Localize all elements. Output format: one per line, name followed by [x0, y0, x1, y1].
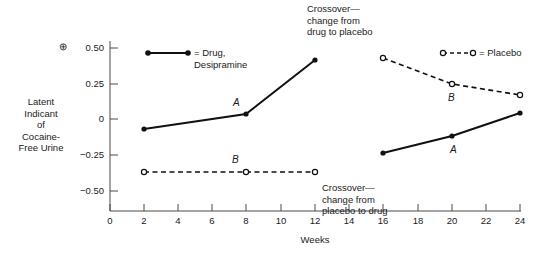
legend-placebo-sample — [440, 50, 475, 55]
annotation-crossover-placebo-to-drug: Crossover— change from placebo to drug — [322, 182, 388, 217]
x-axis-ticks — [110, 204, 520, 211]
legend-label-placebo: = Placebo — [479, 47, 522, 59]
y-axis-title: Latent Indicant of Cocaine- Free Urine — [10, 96, 72, 154]
axis-lines — [110, 41, 521, 211]
xtick-label-4: 4 — [164, 215, 192, 226]
ytick-label-neg-0-50: −0.50 — [52, 185, 104, 196]
xtick-label-6: 6 — [198, 215, 226, 226]
xtick-label-22: 22 — [472, 215, 500, 226]
point-label-a-left: A — [233, 97, 240, 109]
point-label-b-right: B — [448, 92, 455, 104]
xtick-label-16: 16 — [369, 215, 397, 226]
xtick-label-20: 20 — [438, 215, 466, 226]
point-label-b-left: B — [232, 154, 239, 166]
xtick-label-0: 0 — [96, 215, 124, 226]
xtick-label-12: 12 — [301, 215, 329, 226]
legend-label-drug: = Drug, Desipramine — [194, 47, 247, 70]
xtick-label-10: 10 — [267, 215, 295, 226]
xtick-label-2: 2 — [130, 215, 158, 226]
legend-drug-sample — [145, 50, 191, 56]
annotation-crossover-drug-to-placebo: Crossover— change from drug to placebo — [307, 3, 373, 38]
xtick-label-14: 14 — [335, 215, 363, 226]
x-axis-title: Weeks — [276, 234, 354, 245]
y-axis-ticks — [110, 48, 118, 191]
xtick-label-8: 8 — [232, 215, 260, 226]
chart-figure: ⊕ 0.50 0.25 0 −0.25 −0.50 Latent Indican… — [0, 0, 541, 270]
series-placebo-left — [141, 169, 317, 174]
xtick-label-18: 18 — [404, 215, 432, 226]
xtick-label-24: 24 — [506, 215, 534, 226]
ytick-label-0-50: 0.50 — [56, 42, 104, 53]
chart-plot-area — [0, 0, 541, 270]
ytick-label-0-25: 0.25 — [56, 78, 104, 89]
point-label-a-right: A — [450, 144, 457, 156]
